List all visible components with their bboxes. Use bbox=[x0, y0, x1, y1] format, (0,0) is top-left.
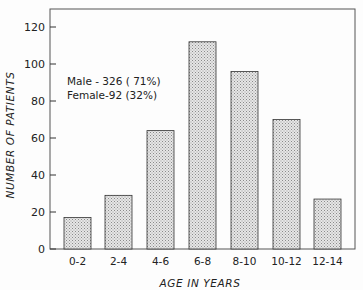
annotation-female: Female-92 (32%) bbox=[67, 89, 157, 101]
y-tick-label: 120 bbox=[24, 21, 45, 34]
x-tick-label: 8-10 bbox=[233, 255, 257, 267]
bar-6-8 bbox=[189, 42, 216, 249]
x-axis: 0-22-44-66-88-1010-1212-14 bbox=[69, 255, 343, 267]
annotation-male: Male - 326 ( 71%) bbox=[67, 75, 161, 87]
bar-0-2 bbox=[64, 218, 91, 249]
x-tick-label: 12-14 bbox=[312, 255, 343, 267]
x-tick-label: 4-6 bbox=[152, 255, 169, 267]
y-tick-label: 0 bbox=[38, 243, 45, 256]
y-tick-label: 60 bbox=[31, 132, 45, 145]
y-tick-label: 100 bbox=[24, 58, 45, 71]
x-axis-title: AGE IN YEARS bbox=[159, 277, 241, 289]
x-tick-label: 6-8 bbox=[194, 255, 211, 267]
bar-12-14 bbox=[314, 199, 341, 249]
bar-10-12 bbox=[273, 120, 300, 250]
y-axis: 020406080100120 bbox=[24, 21, 56, 256]
bar-chart: 020406080100120 0-22-44-66-88-1010-1212-… bbox=[0, 0, 363, 290]
x-tick-label: 2-4 bbox=[110, 255, 127, 267]
bars bbox=[64, 42, 341, 249]
bar-2-4 bbox=[105, 195, 132, 249]
y-tick-label: 20 bbox=[31, 206, 45, 219]
bar-4-6 bbox=[147, 131, 174, 249]
bar-8-10 bbox=[231, 71, 258, 249]
x-tick-label: 10-12 bbox=[271, 255, 302, 267]
y-tick-label: 80 bbox=[31, 95, 45, 108]
x-tick-label: 0-2 bbox=[69, 255, 86, 267]
y-tick-label: 40 bbox=[31, 169, 45, 182]
y-axis-title: NUMBER OF PATIENTS bbox=[4, 72, 16, 199]
